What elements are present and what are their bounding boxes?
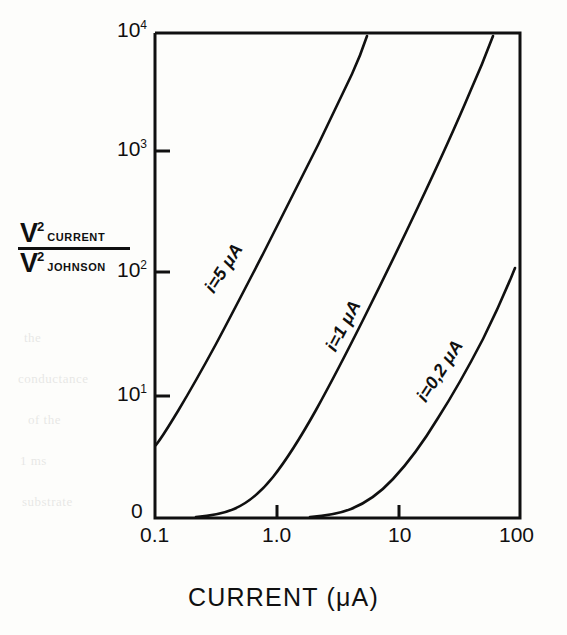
denominator-subscript: JOHNSON xyxy=(47,262,106,273)
numerator-subscript: CURRENT xyxy=(47,232,105,243)
denominator-symbol: V xyxy=(20,252,37,276)
curve-i-1ua xyxy=(196,36,493,517)
curve-i-5ua xyxy=(156,36,367,445)
y-tick-marks xyxy=(155,151,170,396)
y-axis-numerator: V 2 CURRENT xyxy=(18,222,136,246)
y-tick-label-10e3: 103 xyxy=(117,137,147,161)
numerator-symbol: V xyxy=(20,222,37,246)
y-tick-label-zero: 0 xyxy=(131,499,143,523)
x-tick-marks xyxy=(277,505,399,518)
numerator-exponent: 2 xyxy=(37,220,44,233)
y-tick-label-10e1: 101 xyxy=(117,382,147,406)
y-tick-label-10e2: 102 xyxy=(117,258,147,282)
x-tick-label-1p0: 1.0 xyxy=(262,523,291,547)
figure-container: the conductance of the 1 ms substrate V xyxy=(0,0,567,635)
denominator-exponent: 2 xyxy=(37,250,44,263)
x-axis-title: CURRENT (μA) xyxy=(0,583,567,612)
x-tick-label-100: 100 xyxy=(499,523,534,547)
x-tick-label-0p1: 0.1 xyxy=(140,523,169,547)
x-tick-label-10: 10 xyxy=(388,523,411,547)
y-tick-label-10e4: 104 xyxy=(117,18,147,42)
